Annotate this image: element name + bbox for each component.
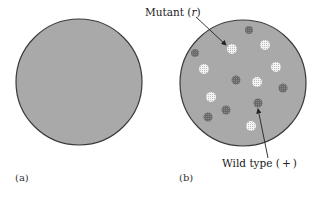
wild-type-plaque xyxy=(245,26,253,34)
panel-label-b: (b) xyxy=(179,172,193,183)
wild-type-label: Wild type (+) xyxy=(222,157,297,169)
mutant-plaque xyxy=(246,121,256,131)
wild-type-plaque xyxy=(254,99,263,108)
wild-type-plaque xyxy=(204,113,213,122)
wild-type-plaque xyxy=(232,76,241,85)
wild-type-plaque xyxy=(222,106,231,115)
mutant-plaque xyxy=(252,77,262,87)
mutant-label: Mutant (r) xyxy=(145,6,201,18)
mutant-plaque xyxy=(271,62,281,72)
wild-type-symbol: + xyxy=(280,157,293,169)
wild-type-plaque xyxy=(191,49,199,57)
panel-label-a: (a) xyxy=(15,172,29,183)
mutant-plaque xyxy=(206,92,216,102)
petri-dish-a xyxy=(16,19,142,145)
wild-type-plaque xyxy=(279,84,288,93)
wild-type-label-text: Wild type xyxy=(222,157,276,169)
petri-dish-b xyxy=(180,20,306,146)
mutant-symbol: r xyxy=(191,6,196,18)
mutant-plaque xyxy=(199,64,209,74)
mutant-plaque xyxy=(227,44,237,54)
mutant-plaque xyxy=(260,40,270,50)
mutant-label-text: Mutant xyxy=(145,6,187,18)
